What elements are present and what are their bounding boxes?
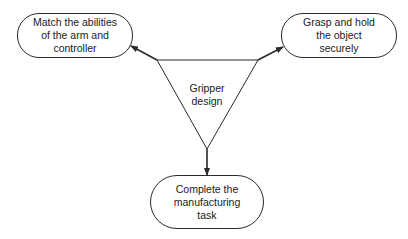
goal-node-label: Grasp and hold the object securely (303, 16, 375, 55)
center-label-gripper-design: Gripper design (177, 82, 237, 108)
goal-node-manufacturing-task: Complete the manufacturing task (150, 175, 264, 229)
arrow-to-left-goal (131, 46, 157, 60)
goal-node-arm-controller: Match the abilities of the arm and contr… (17, 13, 133, 58)
goal-node-grasp-hold: Grasp and hold the object securely (281, 13, 397, 58)
goal-node-label: Complete the manufacturing task (174, 183, 241, 222)
arrow-to-right-goal (258, 47, 283, 60)
goal-node-label: Match the abilities of the arm and contr… (33, 16, 117, 55)
